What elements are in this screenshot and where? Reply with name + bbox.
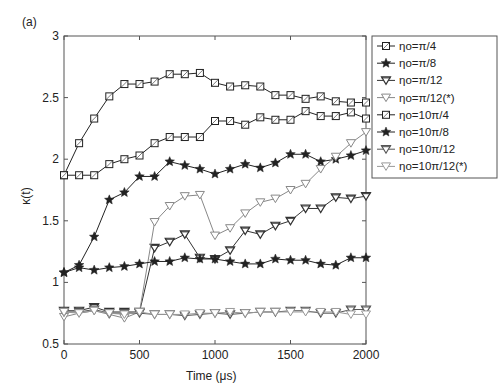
- x-tick-label: 500: [129, 348, 149, 362]
- x-tick-label: 0: [61, 348, 68, 362]
- legend-label: ηo=10π/12(*): [399, 160, 468, 172]
- legend-label: ηo=10π/8: [399, 126, 449, 138]
- y-axis-label: κ(t): [19, 187, 33, 204]
- panel-label: (a): [22, 15, 37, 29]
- legend: ηo=π/4ηo=π/8ηo=π/12ηo=π/12(*)ηo=10π/4ηo=…: [372, 36, 497, 178]
- x-tick-label: 1500: [277, 348, 304, 362]
- x-tick-label: 2000: [353, 348, 380, 362]
- x-tick-label: 1000: [202, 348, 229, 362]
- y-tick-label: 0.5: [42, 337, 59, 351]
- y-tick-label: 1.5: [42, 214, 59, 228]
- y-tick-label: 1: [52, 275, 59, 289]
- x-axis-label: Time (μs): [186, 369, 236, 383]
- legend-label: ηo=π/8: [399, 57, 436, 69]
- legend-label: ηo=π/12: [399, 74, 442, 86]
- legend-label: ηo=π/12(*): [399, 92, 455, 104]
- y-tick-label: 2.5: [42, 91, 59, 105]
- y-tick-label: 3: [52, 29, 59, 43]
- legend-label: ηo=10π/4: [399, 109, 449, 121]
- y-tick-label: 2: [52, 152, 59, 166]
- legend-label: ηo=π/4: [399, 40, 437, 52]
- legend-label: ηo=10π/12: [399, 143, 455, 155]
- chart: (a) 0.511.522.53 0500100015002000 Time (…: [0, 0, 499, 392]
